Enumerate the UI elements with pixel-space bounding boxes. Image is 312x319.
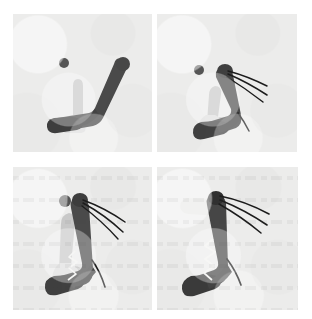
panel-3-canvas <box>13 167 152 310</box>
panel-2-ball <box>194 65 204 75</box>
panel-1-canvas <box>13 14 152 152</box>
panel-1-ball <box>59 58 69 68</box>
panel-1-artwork <box>13 14 152 152</box>
panel-2-artwork <box>157 14 297 152</box>
panel-1-dark-limb <box>47 57 130 133</box>
panel-3-artwork <box>13 167 152 310</box>
figure-panel-grid <box>0 0 312 319</box>
panel-4-canvas <box>157 167 298 310</box>
panel-4-artwork <box>157 167 298 310</box>
figure-panel-1 <box>0 0 152 160</box>
panel-3-ball <box>59 195 71 207</box>
panel-2-canvas <box>157 14 297 152</box>
figure-panel-4 <box>152 160 312 319</box>
figure-panel-2 <box>152 0 312 160</box>
figure-panel-3 <box>0 160 152 319</box>
